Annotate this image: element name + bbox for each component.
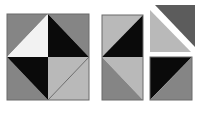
quilt-pieces-diagram — [0, 0, 203, 113]
middle-column — [102, 15, 143, 100]
bottom-right-square — [150, 57, 192, 100]
diagram-svg — [0, 0, 203, 113]
assembled-square — [7, 14, 89, 100]
